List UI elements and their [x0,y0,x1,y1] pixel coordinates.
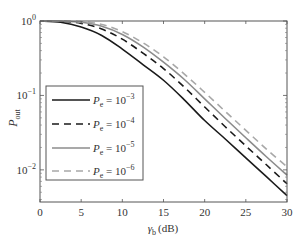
legend: Pe = 10−3Pe = 10−4Pe = 10−5Pe = 10−6 [46,86,143,180]
x-tick-label: 5 [78,206,84,218]
x-tick-label: 10 [117,206,129,218]
x-tick-label: 20 [199,206,211,218]
outage-probability-chart: 051015202530 10010−110−2 Pout γb(dB) Pe … [0,0,307,242]
x-axis-label: γb(dB) [148,222,179,237]
x-tick-label: 30 [282,206,294,218]
y-tick-label: 10−1 [16,87,36,101]
x-tick-label: 15 [158,206,170,218]
y-tick-label: 100 [21,13,36,27]
y-tick-label: 10−2 [16,162,36,176]
y-axis-label: Pout [6,108,22,127]
x-tick-label: 25 [240,206,252,218]
x-tick-label: 0 [37,206,43,218]
